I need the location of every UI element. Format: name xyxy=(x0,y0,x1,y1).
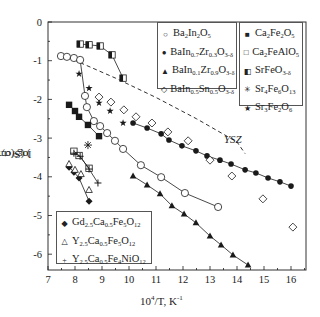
legend-marker-icon: ◧ xyxy=(243,64,252,80)
legend-marker-icon: ● xyxy=(161,45,167,61)
data-point-filled-square xyxy=(76,114,82,120)
legend-item: ★Sr3Fe2O6 xyxy=(243,99,299,118)
legend-marker-icon: ✳ xyxy=(243,82,252,98)
data-point-filled-circle xyxy=(158,131,164,137)
data-point-open-diamond xyxy=(164,128,172,136)
legend-item: □Ca2FeAlO5 xyxy=(243,44,299,63)
data-point-open-diamond xyxy=(184,137,192,145)
data-point-filled-circle xyxy=(265,175,271,181)
data-point-star xyxy=(119,119,126,126)
legend-item: ●BaIn0.7Zr0.3O3-δ xyxy=(161,44,233,63)
data-point-half-square xyxy=(97,43,103,49)
data-point-filled-triangle xyxy=(130,173,137,179)
legend-item: ○Ba2In2O5 xyxy=(161,25,233,44)
data-point-filled-square xyxy=(72,108,78,114)
data-point-star xyxy=(85,84,92,91)
legend-label: Sr3Fe2O6 xyxy=(255,99,292,118)
data-point-filled-square xyxy=(85,122,91,128)
y-tick-label: -3 xyxy=(33,133,42,144)
data-point-open-circle xyxy=(158,174,165,181)
x-tick-label: 13 xyxy=(205,274,216,285)
legend-marker-icon: □ xyxy=(243,45,249,61)
data-point-plus xyxy=(94,179,101,186)
legend-label: Ca2Fe2O5 xyxy=(255,25,295,44)
data-point-filled-circle xyxy=(193,148,199,154)
data-point-open-circle xyxy=(77,56,84,63)
data-point-filled-diamond xyxy=(86,198,93,205)
data-point-star xyxy=(95,99,102,106)
legend-item: △Y2.5Ca0.5Fe5O12 xyxy=(60,233,148,252)
x-tick-label: 14 xyxy=(232,274,243,285)
data-point-filled-circle xyxy=(179,143,185,149)
data-point-filled-circle xyxy=(288,183,294,189)
data-point-filled-circle xyxy=(277,179,283,185)
legend-label: SrFeO3-δ xyxy=(255,62,291,81)
data-point-filled-circle xyxy=(228,161,234,167)
data-point-half-square xyxy=(77,41,83,47)
y-tick-label: -4 xyxy=(33,171,42,182)
data-point-open-triangle xyxy=(72,166,79,172)
legend-label: BaIn0.5Sn0.5O3-δ xyxy=(170,81,234,100)
data-point-open-circle xyxy=(215,203,222,210)
legend-label: Ba2In2O5 xyxy=(173,25,211,44)
legend-label: BaIn0.1Zr0.9O3-δ xyxy=(172,62,235,81)
x-tick-label: 11 xyxy=(151,274,161,285)
legend-marker-icon: △ xyxy=(60,234,69,250)
data-point-half-square xyxy=(120,75,126,81)
data-point-open-circle xyxy=(63,53,70,60)
legend-label: Sr4Fe6O13 xyxy=(255,81,295,100)
legend-item: ✳Sr4Fe6O13 xyxy=(243,81,299,100)
y-tick-label: -2 xyxy=(33,94,42,105)
legend-label: Gd2.5Ca0.5Fe5O12 xyxy=(72,214,141,233)
data-point-filled-square xyxy=(66,102,72,108)
x-tick-label: 16 xyxy=(286,274,297,285)
legend-box-garnets: ◆Gd2.5Ca0.5Fe5O12△Y2.5Ca0.5Fe5O12+Y2.5Ca… xyxy=(56,211,152,264)
data-point-filled-circle xyxy=(253,170,259,176)
legend-label: BaIn0.7Zr0.3O3-δ xyxy=(170,44,233,63)
data-point-open-triangle xyxy=(86,186,93,192)
legend-item: ◧SrFeO3-δ xyxy=(243,62,299,81)
data-point-filled-circle xyxy=(130,120,136,126)
x-tick-label: 9 xyxy=(99,274,104,285)
legend-label: Y2.5Ca0.5Fe4NiO12 xyxy=(72,251,146,270)
data-point-open-circle xyxy=(111,137,118,144)
legend-item: ■Ca2Fe2O5 xyxy=(243,25,299,44)
data-point-open-circle xyxy=(97,123,104,130)
legend-marker-icon: ◇ xyxy=(161,82,167,98)
data-point-open-circle xyxy=(181,189,188,196)
x-tick-label: 8 xyxy=(72,274,77,285)
legend-marker-icon: ■ xyxy=(243,27,252,43)
data-point-half-square xyxy=(109,52,115,58)
legend-label: Y2.5Ca0.5Fe5O12 xyxy=(72,233,135,252)
legend-item: ▲BaIn0.1Zr0.9O3-δ xyxy=(161,62,233,81)
y-tick-label: 0 xyxy=(37,17,42,28)
data-point-filled-triangle xyxy=(193,219,200,225)
data-point-open-diamond xyxy=(228,172,236,180)
x-tick-label: 10 xyxy=(124,274,135,285)
data-point-filled-square xyxy=(96,133,102,139)
data-point-open-circle xyxy=(137,162,144,169)
ysz-annotation: YSZ xyxy=(224,133,242,145)
data-point-filled-triangle xyxy=(157,190,164,196)
data-point-open-circle xyxy=(90,117,97,124)
data-point-open-diamond xyxy=(259,195,267,203)
data-point-asterisk xyxy=(84,141,92,149)
y-tick-label: -6 xyxy=(33,249,42,260)
legend-marker-icon: ○ xyxy=(161,27,170,43)
data-point-filled-circle xyxy=(166,137,172,143)
x-tick-label: 12 xyxy=(178,274,189,285)
data-point-open-circle xyxy=(81,92,88,99)
data-point-open-circle xyxy=(104,129,111,136)
data-point-filled-circle xyxy=(242,167,248,173)
data-point-open-diamond xyxy=(148,119,156,127)
data-point-open-diamond xyxy=(132,113,140,121)
y-tick-label: -1 xyxy=(33,55,42,66)
data-point-filled-triangle xyxy=(230,251,237,257)
legend-item: ◇BaIn0.5Sn0.5O3-δ xyxy=(161,81,233,100)
data-point-open-triangle xyxy=(78,171,85,177)
data-point-open-circle xyxy=(83,104,90,111)
legend-label: Ca2FeAlO5 xyxy=(252,44,299,63)
x-tick-label: 15 xyxy=(259,274,270,285)
x-tick-label: 7 xyxy=(45,274,50,285)
data-point-open-triangle xyxy=(66,161,73,167)
